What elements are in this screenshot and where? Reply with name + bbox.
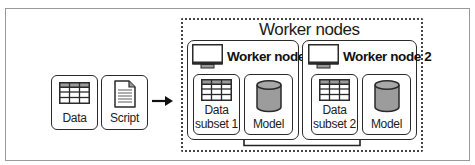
data-label: Data [52,112,97,125]
table-icon [59,82,90,104]
database-cylinder-icon [374,80,400,113]
document-icon [114,80,136,108]
data-subset-2-label-line1: Data [312,104,357,117]
data-subset-2-card: Data subset 2 [311,74,358,135]
data-subset-1-label-line1: Data [194,104,239,117]
script-card: Script [101,75,148,130]
model-1-card: Model [244,74,293,135]
model-1-label: Model [245,118,292,131]
worker-nodes-title: Worker nodes [259,20,360,40]
right-arrow-icon [152,95,174,107]
worker-node-2-title: Worker node 2 [343,49,431,64]
monitor-icon [192,44,223,69]
database-cylinder-icon [256,80,282,113]
worker-node-2: Worker node 2 Data subset 2 Model [302,40,417,140]
model-2-card: Model [362,74,411,135]
table-icon [319,79,350,101]
script-label: Script [102,112,147,125]
table-icon [201,79,232,101]
model-2-label: Model [363,118,410,131]
worker-node-1: Worker node 1 Data subset 1 Model [187,40,299,140]
data-subset-1-card: Data subset 1 [193,74,240,135]
monitor-icon [308,44,339,69]
data-card: Data [51,75,98,130]
data-subset-2-label-line2: subset 2 [312,118,357,131]
data-subset-1-label-line2: subset 1 [194,118,239,131]
